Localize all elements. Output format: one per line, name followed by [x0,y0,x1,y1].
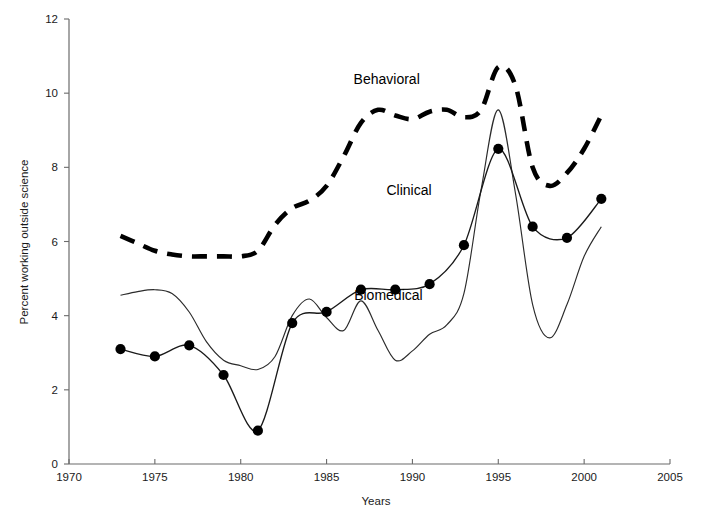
data-point-marker [287,318,297,328]
x-tick-label: 2005 [657,471,683,483]
x-tick-label: 2000 [571,471,597,483]
x-tick-label: 1995 [485,471,511,483]
x-tick-label: 1975 [142,471,168,483]
data-point-marker [459,240,469,250]
x-axis-title: Years [362,495,391,507]
y-tick-label: 12 [45,13,58,25]
x-tick-label: 1985 [314,471,340,483]
line-chart: 024681012 197019751980198519901995200020… [0,0,703,525]
y-axis-title: Percent working outside science [18,160,30,325]
series-annotations: BehavioralClinicalBiomedical [354,71,432,303]
data-point-marker [321,307,331,317]
x-tick-label: 1990 [400,471,426,483]
y-tick-label: 4 [52,310,59,322]
data-point-marker [150,351,160,361]
data-point-marker [596,194,606,204]
x-axis-ticks: 19701975198019851990199520002005 [56,459,683,483]
series-label-clinical: Clinical [386,182,431,198]
data-point-marker [218,370,228,380]
y-axis-ticks: 024681012 [45,13,69,470]
y-tick-label: 0 [52,458,58,470]
data-point-marker [493,144,503,154]
chart-container: 024681012 197019751980198519901995200020… [0,0,703,525]
data-point-marker [528,222,538,232]
data-point-marker [425,279,435,289]
x-tick-label: 1970 [56,471,82,483]
data-point-marker [562,233,572,243]
y-tick-label: 8 [52,161,58,173]
series-label-biomedical: Biomedical [354,287,422,303]
x-tick-label: 1980 [228,471,254,483]
data-point-marker [184,340,194,350]
y-tick-label: 2 [52,384,58,396]
y-tick-label: 6 [52,236,58,248]
series-label-behavioral: Behavioral [354,71,420,87]
data-point-marker [115,344,125,354]
data-point-marker [253,426,263,436]
y-tick-label: 10 [45,87,58,99]
